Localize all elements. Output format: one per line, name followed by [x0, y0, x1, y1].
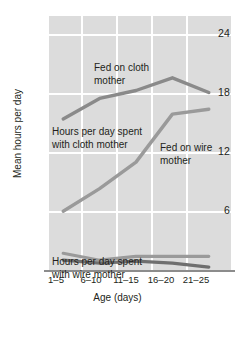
chart-container: 24 18 12 6 1–5 6–10 11–15 16–20 21–25 Ag… [0, 0, 235, 357]
x-tick-4: 21–25 [168, 274, 224, 285]
annotation-hours-with-cloth-mother: Hours per day spent with cloth mother [52, 126, 142, 151]
y-tick-6: 6 [191, 204, 235, 216]
series-layer [0, 0, 235, 357]
annotation-fed-on-wire-mother: Fed on wire mother [160, 142, 212, 167]
y-tick-6-label: 6 [224, 204, 235, 216]
annotation-hours-with-wire-mother: Hours per day spent with wire mother [52, 256, 142, 281]
annotation-fed-on-cloth-mother: Fed on cloth mother [94, 62, 149, 87]
y-tick-12-label: 12 [218, 145, 235, 157]
y-tick-18: 18 [191, 86, 235, 98]
x-axis-title: Age (days) [0, 292, 235, 303]
y-tick-18-label: 18 [218, 86, 235, 98]
y-tick-24-label: 24 [218, 27, 235, 39]
y-axis-title: Mean hours per day [12, 54, 23, 214]
y-tick-24: 24 [191, 27, 235, 39]
